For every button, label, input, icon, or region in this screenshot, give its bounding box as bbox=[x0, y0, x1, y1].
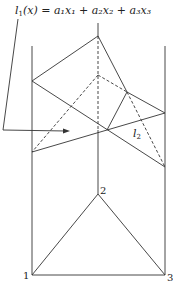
pointer-line bbox=[3, 19, 66, 131]
formula-label: l1(x) = a₁x₁ + a₂x₂ + a₃x₃ bbox=[15, 4, 151, 18]
intersection-edge bbox=[107, 92, 127, 130]
plane-l2-edge-b-dashed bbox=[32, 75, 98, 152]
plane-l1-edge-c bbox=[32, 81, 165, 167]
base-edge-2-3 bbox=[98, 194, 165, 275]
arrow-head-icon bbox=[63, 129, 70, 134]
plane-l2-edge-a bbox=[32, 113, 165, 152]
vertex-label-1: 1 bbox=[23, 270, 29, 281]
vertex-label-2: 2 bbox=[100, 185, 106, 196]
plane-l1-edge-a bbox=[32, 36, 98, 81]
diagram-canvas: l1(x) = a₁x₁ + a₂x₂ + a₃x₃ l2 1 2 3 bbox=[0, 0, 173, 290]
base-edge-1-2 bbox=[32, 194, 98, 275]
plane-l2-label: l2 bbox=[133, 127, 141, 141]
vertex-label-3: 3 bbox=[167, 272, 173, 283]
